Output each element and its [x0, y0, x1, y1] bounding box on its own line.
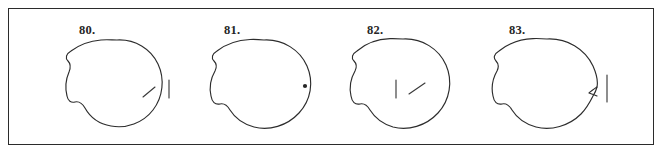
figure-panel-83: 83.: [471, 18, 631, 154]
outline-shape-82: [350, 39, 450, 129]
interior-dot-81: [303, 84, 307, 88]
specimen-outline-80: [41, 18, 201, 154]
specimen-outline-83: [471, 18, 631, 154]
specimen-outline-81: [186, 18, 346, 154]
outline-shape-83: [492, 39, 597, 129]
specimen-outline-82: [329, 18, 489, 154]
plate-border-frame: 80. 81. 82.: [8, 8, 654, 145]
outline-shape-80: [66, 40, 162, 127]
figure-panel-80: 80.: [41, 18, 201, 154]
figure-panel-82: 82.: [329, 18, 489, 154]
outline-shape-81: [210, 39, 311, 128]
figure-panel-81: 81.: [186, 18, 346, 154]
figure-plate: 80. 81. 82.: [0, 0, 666, 154]
